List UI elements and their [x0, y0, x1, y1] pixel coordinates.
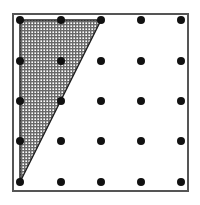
- grid-dot: [16, 16, 24, 24]
- grid-dot: [97, 178, 105, 186]
- grid-dot: [97, 137, 105, 145]
- grid-dot: [137, 16, 145, 24]
- grid-dot: [177, 178, 185, 186]
- grid-dot: [177, 57, 185, 65]
- grid-dot: [16, 97, 24, 105]
- grid-dot: [137, 97, 145, 105]
- grid-dot: [57, 178, 65, 186]
- grid-dot: [57, 57, 65, 65]
- grid-dot: [57, 16, 65, 24]
- grid-dot: [97, 16, 105, 24]
- grid-dot: [137, 137, 145, 145]
- grid-dot: [97, 57, 105, 65]
- grid-dot: [16, 57, 24, 65]
- grid-dot: [177, 97, 185, 105]
- grid-dot: [137, 178, 145, 186]
- geoboard-figure: [0, 0, 200, 205]
- grid-dot: [57, 97, 65, 105]
- grid-dot: [16, 178, 24, 186]
- grid-dot: [97, 97, 105, 105]
- grid-dot: [16, 137, 24, 145]
- grid-dot: [137, 57, 145, 65]
- grid-dot: [57, 137, 65, 145]
- grid-dot: [177, 137, 185, 145]
- grid-dot: [177, 16, 185, 24]
